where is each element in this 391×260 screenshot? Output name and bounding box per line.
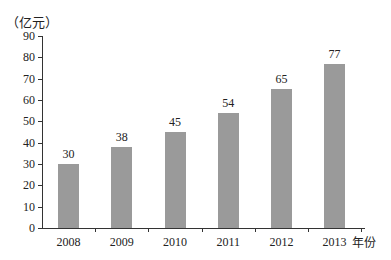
bar-2010 (165, 132, 186, 228)
x-tick-label: 2010 (155, 235, 195, 250)
value-label: 54 (208, 96, 248, 111)
value-label: 38 (102, 130, 142, 145)
y-tick (38, 121, 42, 122)
y-tick-label: 50 (5, 115, 35, 127)
value-label: 30 (49, 147, 89, 162)
x-tick (95, 228, 96, 232)
y-tick-label: 10 (5, 201, 35, 213)
y-tick-label: 90 (5, 30, 35, 42)
y-tick (38, 228, 42, 229)
value-label: 45 (155, 115, 195, 130)
y-axis-line (42, 36, 43, 229)
y-tick (38, 143, 42, 144)
x-tick-label: 2012 (261, 235, 301, 250)
value-label: 65 (261, 72, 301, 87)
y-tick-label: 70 (5, 73, 35, 85)
y-tick-label: 60 (5, 94, 35, 106)
bar-chart: （亿元） 0102030405060708090 302008382009452… (0, 0, 391, 260)
x-tick (255, 228, 256, 232)
x-axis-line (42, 228, 365, 229)
y-tick-label: 30 (5, 158, 35, 170)
y-tick-label: 0 (5, 222, 35, 234)
x-tick-label: 2011 (208, 235, 248, 250)
y-tick-label: 20 (5, 179, 35, 191)
bar-2009 (111, 147, 132, 228)
x-tick (202, 228, 203, 232)
bar-2011 (218, 113, 239, 228)
x-tick (308, 228, 309, 232)
x-tick-label: 2013 (315, 235, 355, 250)
y-tick (38, 36, 42, 37)
y-tick (38, 207, 42, 208)
value-label: 77 (315, 47, 355, 62)
bar-2012 (271, 89, 292, 228)
bar-2008 (58, 164, 79, 228)
x-tick (148, 228, 149, 232)
x-tick-label: 2008 (49, 235, 89, 250)
y-tick (38, 164, 42, 165)
x-tick (361, 228, 362, 232)
y-tick (38, 100, 42, 101)
y-tick-label: 40 (5, 137, 35, 149)
x-axis-unit: 年份 (352, 233, 376, 251)
x-tick-label: 2009 (102, 235, 142, 250)
y-tick (38, 57, 42, 58)
bar-2013 (324, 64, 345, 228)
y-tick (38, 79, 42, 80)
y-tick (38, 185, 42, 186)
y-tick-label: 80 (5, 51, 35, 63)
